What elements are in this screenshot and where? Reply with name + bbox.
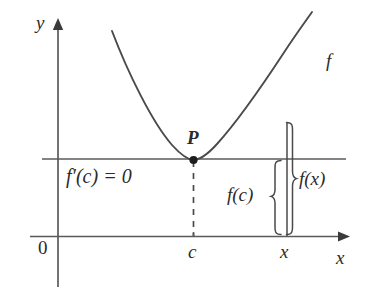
- brace-fc: [271, 161, 281, 235]
- y-axis-label: y: [36, 13, 44, 32]
- point-p-label: P: [187, 128, 199, 147]
- x-axis-arrowhead: [338, 232, 350, 242]
- x-axis-label: x: [336, 248, 344, 267]
- function-curve-f: [112, 12, 312, 160]
- tick-label-c: c: [188, 242, 196, 261]
- derivative-equation: f′(c) = 0: [66, 166, 132, 186]
- brace-fx-label: f(x): [299, 169, 325, 188]
- point-p-dot: [189, 156, 197, 164]
- tick-label-x: x: [280, 242, 288, 261]
- y-axis-arrowhead: [53, 18, 63, 30]
- curve-f-label: f: [326, 51, 331, 70]
- brace-fx: [287, 123, 297, 235]
- origin-label: 0: [38, 238, 48, 257]
- figure-canvas: y x 0 P f c x f′(c) = 0 f(c) f(x): [0, 0, 374, 295]
- brace-fc-label: f(c): [227, 185, 253, 204]
